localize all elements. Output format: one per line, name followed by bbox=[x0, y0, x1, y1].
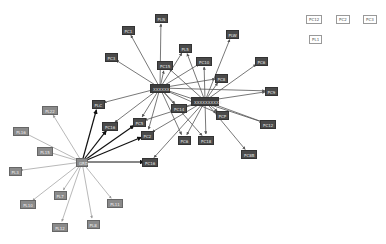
node-plw[interactable]: PLW bbox=[226, 30, 239, 39]
node-pc10[interactable]: PC10 bbox=[196, 57, 212, 66]
node-pc18[interactable]: PC18 bbox=[198, 136, 214, 145]
node-pl15[interactable]: PL15 bbox=[37, 147, 53, 156]
node-pc6[interactable]: PC6 bbox=[255, 57, 268, 66]
node-grd[interactable]: GRD bbox=[76, 158, 88, 167]
edge-hubA-n17 bbox=[149, 88, 160, 129]
node-pc12[interactable]: PC12 bbox=[260, 120, 276, 129]
node-pc16[interactable]: PC16 bbox=[142, 158, 158, 167]
node-pl8[interactable]: PL8 bbox=[87, 220, 100, 229]
edge-hubC-p8 bbox=[82, 162, 92, 218]
legend-item-pc2: PC2 bbox=[336, 15, 350, 24]
edge-hubC-n11 bbox=[82, 110, 96, 162]
legend-item-pc12: PC12 bbox=[306, 15, 322, 24]
node-pl12[interactable]: PL12 bbox=[52, 223, 68, 232]
node-plc[interactable]: PLC bbox=[92, 100, 105, 109]
node-pcp[interactable]: PCP bbox=[216, 111, 229, 120]
node-pl3[interactable]: PL3 bbox=[9, 167, 22, 176]
node-pc6[interactable]: PC6 bbox=[178, 136, 191, 145]
node-pl10[interactable]: PL10 bbox=[20, 200, 36, 209]
node-pc8[interactable]: PC8 bbox=[215, 74, 228, 83]
node-pc3[interactable]: PC3 bbox=[105, 53, 118, 62]
node-pl5[interactable]: PL5 bbox=[179, 44, 192, 53]
node-pc2[interactable]: PC2 bbox=[141, 131, 154, 140]
legend-item-pl1: PL1 bbox=[309, 35, 322, 44]
node-pl22[interactable]: PL22 bbox=[42, 106, 58, 115]
legend-item-pc3: PC3 bbox=[363, 15, 377, 24]
node-pl11[interactable]: PL11 bbox=[107, 199, 123, 208]
node-pc15[interactable]: PC15 bbox=[157, 61, 173, 70]
edge-hubA-n1 bbox=[160, 24, 161, 88]
node-pln[interactable]: PLN bbox=[155, 14, 168, 23]
network-diagram bbox=[0, 0, 386, 244]
node-pc16[interactable]: PC16 bbox=[102, 122, 118, 131]
node-pc9[interactable]: PC9 bbox=[265, 87, 278, 96]
node-pc5[interactable]: PC5 bbox=[133, 118, 146, 127]
node-xxxxxx[interactable]: XXXXXX bbox=[150, 84, 170, 93]
node-pl16[interactable]: PL16 bbox=[13, 127, 29, 136]
node-pc1[interactable]: PC1 bbox=[122, 26, 135, 35]
node-xxxxxxxxxx[interactable]: XXXXXXXXXX bbox=[191, 97, 219, 106]
node-pc14[interactable]: PC14 bbox=[171, 104, 187, 113]
node-pl7[interactable]: PL7 bbox=[54, 191, 67, 200]
edge-hubA-n2 bbox=[131, 35, 160, 88]
node-pc8b[interactable]: PC8B bbox=[241, 150, 257, 159]
